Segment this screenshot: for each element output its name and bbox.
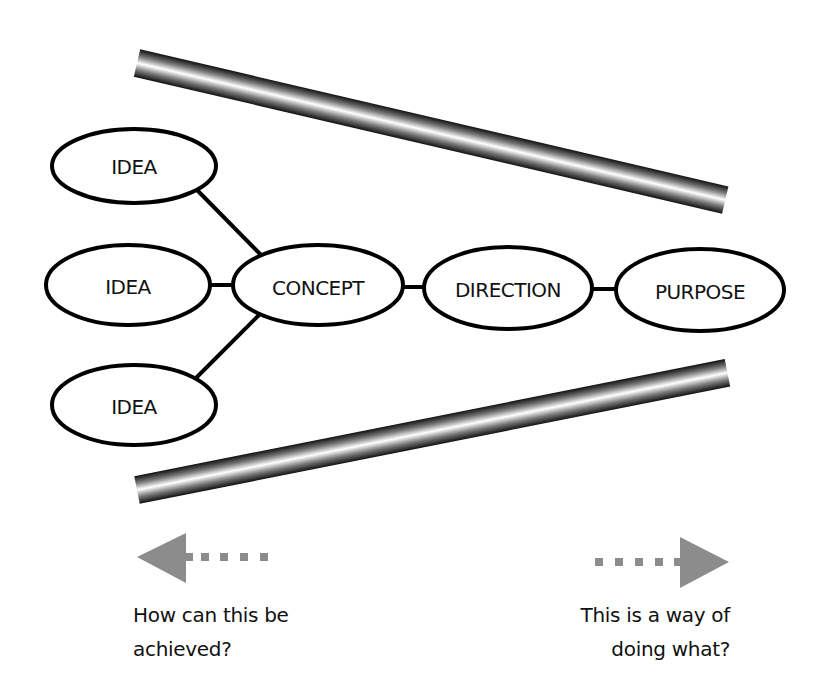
node-label: PURPOSE bbox=[655, 280, 745, 304]
node-label: IDEA bbox=[111, 395, 157, 419]
arrow-left-icon bbox=[137, 533, 268, 583]
node-concept: CONCEPT bbox=[233, 245, 403, 325]
node-idea-top: IDEA bbox=[52, 129, 216, 203]
node-label: IDEA bbox=[111, 155, 157, 179]
node-label: DIRECTION bbox=[455, 278, 561, 302]
funnel-bar-bottom bbox=[134, 359, 730, 504]
funnel-bar-top bbox=[134, 49, 729, 213]
node-idea-middle: IDEA bbox=[46, 245, 210, 325]
node-label: IDEA bbox=[105, 275, 151, 299]
caption-line: How can this be bbox=[133, 598, 373, 632]
node-idea-bottom: IDEA bbox=[52, 365, 216, 445]
caption-how-achieved: How can this be achieved? bbox=[133, 598, 373, 666]
node-label: CONCEPT bbox=[272, 276, 365, 300]
edge-idea-bottom-concept bbox=[196, 313, 261, 378]
arrow-right-icon bbox=[595, 537, 729, 588]
caption-line: doing what? bbox=[480, 632, 730, 666]
caption-line: achieved? bbox=[133, 632, 373, 666]
caption-line: This is a way of bbox=[480, 598, 730, 632]
concept-diagram: IDEA IDEA IDEA CONCEPT DIRECTION PURPOSE bbox=[0, 0, 821, 700]
edge-idea-top-concept bbox=[197, 190, 262, 256]
caption-doing-what: This is a way of doing what? bbox=[480, 598, 730, 666]
node-purpose: PURPOSE bbox=[616, 249, 784, 331]
node-direction: DIRECTION bbox=[424, 247, 592, 329]
